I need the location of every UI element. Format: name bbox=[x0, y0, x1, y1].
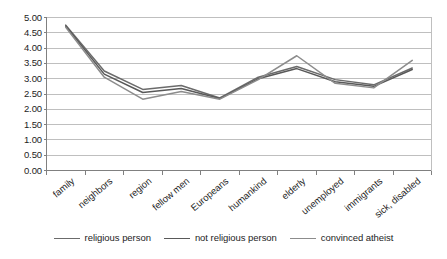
legend-item[interactable]: not religious person bbox=[164, 233, 277, 243]
line-chart: 5.004.504.003.503.002.502.001.501.000.50… bbox=[0, 0, 447, 259]
y-axis-labels: 5.004.504.003.503.002.502.001.501.000.50… bbox=[6, 0, 42, 180]
legend-item[interactable]: religious person bbox=[54, 233, 151, 243]
y-axis-tick-label: 1.50 bbox=[6, 120, 42, 130]
legend-item[interactable]: convinced atheist bbox=[290, 233, 394, 243]
y-axis-tick-label: 2.00 bbox=[6, 104, 42, 114]
x-axis-tick-label-text: elderly bbox=[280, 176, 308, 201]
x-axis-tick-label-text: Europeans bbox=[189, 176, 230, 213]
y-axis-tick-label: 5.00 bbox=[6, 13, 42, 23]
legend-line-swatch bbox=[164, 238, 190, 239]
legend-item-label: not religious person bbox=[195, 233, 277, 243]
y-axis-tick-label: 3.50 bbox=[6, 58, 42, 68]
x-axis-tick-label-text: region bbox=[127, 176, 153, 200]
legend-line-swatch bbox=[290, 238, 316, 239]
legend-item-label: convinced atheist bbox=[321, 233, 394, 243]
y-axis-tick-label: 4.50 bbox=[6, 28, 42, 38]
legend-item-label: religious person bbox=[85, 233, 151, 243]
y-axis-tick-label: 4.00 bbox=[6, 43, 42, 53]
chart-legend: religious personnot religious personconv… bbox=[0, 228, 447, 248]
y-axis-tick-label: 2.50 bbox=[6, 89, 42, 99]
x-axis-tick-label-text: family bbox=[51, 176, 76, 199]
x-axis-labels: familyneighborsregionfellow menEuropeans… bbox=[0, 170, 447, 230]
legend-line-swatch bbox=[54, 238, 80, 239]
y-axis-tick-label: 3.00 bbox=[6, 74, 42, 84]
y-axis-tick-label: 1.00 bbox=[6, 135, 42, 145]
x-axis-tick-label-text: humankind bbox=[227, 176, 269, 213]
series-lines bbox=[66, 25, 413, 99]
series-line bbox=[66, 25, 413, 98]
x-axis-tick-label-text: neighbors bbox=[77, 176, 115, 210]
y-axis-tick-label: 0.50 bbox=[6, 150, 42, 160]
x-axis-tick-label-text: fellow men bbox=[151, 176, 192, 213]
